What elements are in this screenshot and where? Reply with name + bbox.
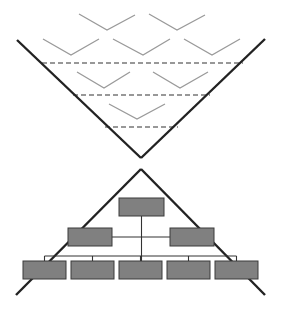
chevron-icon	[79, 14, 135, 30]
chevron-icon	[113, 39, 170, 55]
org-box-top	[119, 198, 164, 216]
funnel-pyramid-diagram	[0, 0, 282, 311]
chevron-icon	[153, 72, 208, 88]
dashed-level-lines	[42, 63, 243, 127]
chevron-icon	[77, 72, 130, 88]
org-box-bottom-4	[167, 261, 210, 279]
funnel-left-edge	[17, 40, 141, 158]
chevron-icon	[184, 39, 240, 55]
chevron-icon	[149, 14, 205, 30]
inverted-triangle-funnel	[17, 39, 265, 158]
chevron-icon	[109, 104, 165, 119]
org-box-bottom-1	[23, 261, 66, 279]
org-box-bottom-2	[71, 261, 114, 279]
org-chart-boxes	[23, 198, 258, 279]
diagram-canvas	[0, 0, 282, 311]
org-box-bottom-3	[119, 261, 162, 279]
org-box-middle-1	[68, 228, 112, 246]
funnel-right-edge	[141, 39, 265, 158]
org-box-bottom-5	[215, 261, 258, 279]
chevron-icon	[43, 39, 99, 55]
chevron-group	[43, 14, 240, 119]
org-box-middle-2	[170, 228, 214, 246]
